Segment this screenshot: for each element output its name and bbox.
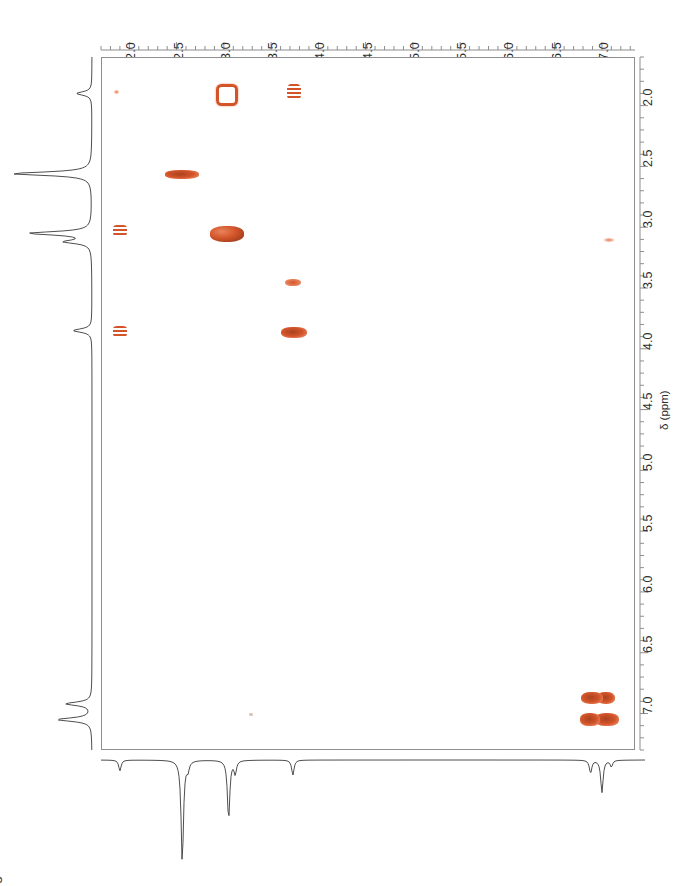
- f1-tick-label: 2.0: [641, 89, 655, 106]
- f2-projection-trace: [101, 752, 646, 872]
- f2-tick-label: 5.0: [408, 33, 422, 51]
- f2-tick-label: 3.5: [266, 33, 280, 51]
- experiment-type-label: gCOSY: [0, 833, 2, 884]
- f2-tick-label: 6.5: [550, 33, 564, 51]
- cross-peak: [114, 90, 119, 94]
- cross-peak: [281, 327, 307, 338]
- cross-peak: [113, 326, 127, 337]
- f1-tick-label: 6.5: [641, 636, 655, 653]
- cross-peak: [580, 713, 600, 726]
- cross-peak: [216, 84, 238, 106]
- f2-tick-label: 3.0: [219, 33, 233, 51]
- f1-tick-label: 4.5: [641, 393, 655, 410]
- f1-axis-title: δ (ppm): [658, 391, 670, 431]
- cross-peak: [285, 279, 301, 286]
- f1-tick-label: 3.0: [641, 211, 655, 228]
- f1-tick-label: 6.0: [641, 575, 655, 592]
- f1-tick-label: 7.0: [641, 697, 655, 714]
- f2-tick-label: 2.5: [172, 33, 186, 51]
- cross-peak: [210, 226, 244, 242]
- cross-peak: [604, 238, 614, 242]
- cross-peak: [249, 713, 253, 716]
- f2-tick-label: 5.5: [455, 33, 469, 51]
- f1-tick-label: 5.0: [641, 454, 655, 471]
- cross-peak: [165, 170, 199, 179]
- f1-tick-label: 2.5: [641, 150, 655, 167]
- f2-projection-svg: [101, 752, 646, 872]
- f2-axis-svg: [0, 0, 676, 58]
- cross-peak: [287, 84, 301, 100]
- f1-tick-label: 4.0: [641, 332, 655, 349]
- f2-tick-label: 2.0: [124, 33, 138, 51]
- cross-peak: [113, 225, 127, 236]
- f1-tick-label: 5.5: [641, 515, 655, 532]
- f2-tick-label: 6.0: [502, 33, 516, 51]
- spectrum-plot-area[interactable]: [101, 57, 635, 750]
- f2-axis-top: 2.02.53.03.54.04.55.05.56.06.57.0: [0, 0, 676, 58]
- f1-tick-label: 3.5: [641, 271, 655, 288]
- cross-peak: [581, 692, 603, 704]
- f2-tick-label: 4.0: [313, 33, 327, 51]
- f1-projection-trace: [0, 57, 101, 750]
- f2-tick-label: 7.0: [597, 33, 611, 51]
- f1-projection-svg: [0, 57, 101, 750]
- f2-tick-label: 4.5: [361, 33, 375, 51]
